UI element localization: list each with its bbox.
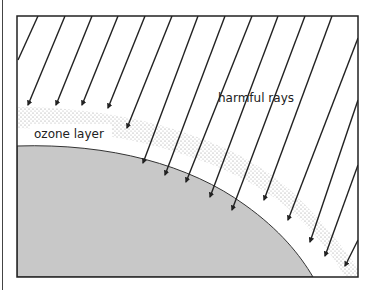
harmful-rays-label: harmful rays <box>218 91 294 105</box>
ozone-diagram: ozone layer harmful rays <box>0 0 371 291</box>
earth-surface <box>17 146 313 277</box>
ozone-layer-label: ozone layer <box>34 127 104 141</box>
